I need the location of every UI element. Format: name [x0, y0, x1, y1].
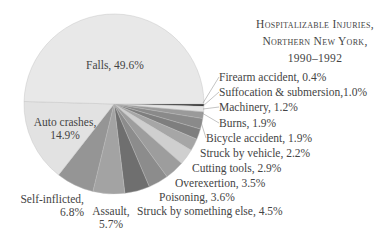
label-falls: Falls, 49.6%	[86, 59, 144, 72]
label-struck-by-vehicle: Struck by vehicle, 2.2%	[200, 147, 310, 160]
label-auto-crashes: Auto crashes, 14.9%	[30, 116, 100, 142]
title-line-2: Northern New York,	[240, 33, 389, 50]
leader-line	[203, 107, 219, 109]
label-cutting-tools: Cutting tools, 2.9%	[192, 162, 281, 175]
label-auto-line1: Auto crashes,	[30, 116, 100, 129]
title-line-3: 1990–1992	[240, 50, 389, 67]
label-assault-line2: 5.7%	[88, 218, 134, 231]
label-assault-line1: Assault,	[88, 205, 134, 218]
label-struck-something-else: Struck by something else, 4.5%	[137, 205, 283, 218]
label-overexertion: Overexertion, 3.5%	[175, 177, 265, 190]
label-self-inflicted: Self-inflicted, 6.8%	[18, 193, 84, 219]
label-auto-line2: 14.9%	[30, 129, 100, 142]
label-self-line1: Self-inflicted,	[18, 193, 84, 206]
label-machinery: Machinery, 1.2%	[219, 101, 298, 114]
leader-line	[202, 113, 219, 123]
label-poisoning: Poisoning, 3.6%	[159, 191, 235, 204]
label-suffocation: Suffocation & submersion,1.0%	[219, 86, 367, 99]
label-firearm: Firearm accident, 0.4%	[219, 71, 326, 84]
title-line-1: Hospitalizable Injuries,	[240, 16, 389, 33]
label-self-line2: 6.8%	[18, 206, 84, 219]
label-bicycle-accident: Bicycle accident, 1.9%	[206, 132, 312, 145]
chart-title: Hospitalizable Injuries, Northern New Yo…	[240, 16, 389, 67]
label-assault: Assault, 5.7%	[88, 205, 134, 231]
label-burns: Burns, 1.9%	[219, 117, 276, 130]
